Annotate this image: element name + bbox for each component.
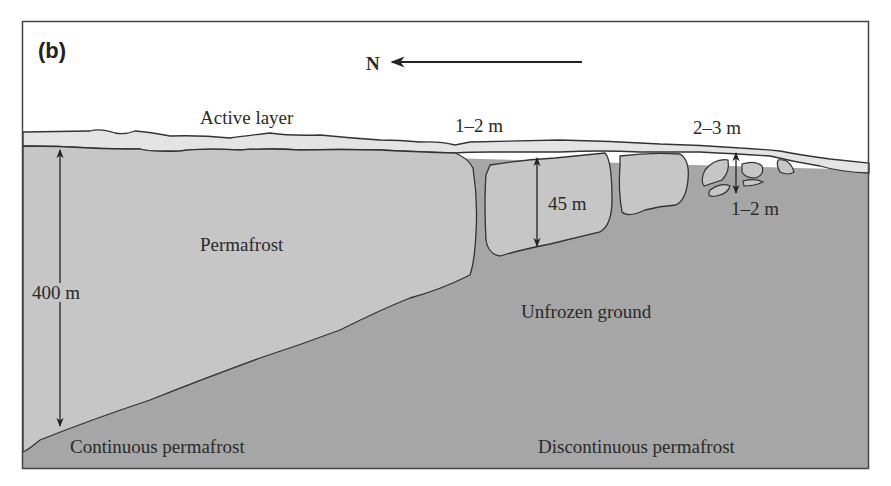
north-label: N (366, 54, 380, 73)
active-depth-label-1: 1–2 m (455, 116, 503, 135)
permafrost-cross-section (0, 0, 891, 486)
active-layer-label: Active layer (200, 108, 293, 127)
depth-400-label: 400 m (32, 283, 80, 302)
unfrozen-ground-label: Unfrozen ground (521, 302, 651, 321)
permafrost-label: Permafrost (200, 235, 283, 254)
permafrost-lens (742, 162, 763, 178)
depth-small-label: 1–2 m (731, 199, 779, 218)
depth-45-label: 45 m (548, 194, 587, 213)
panel-label: (b) (38, 38, 66, 64)
discontinuous-permafrost-label: Discontinuous permafrost (538, 437, 735, 456)
continuous-permafrost-label: Continuous permafrost (70, 437, 245, 456)
permafrost-lens (777, 160, 794, 174)
active-depth-label-2: 2–3 m (693, 118, 741, 137)
